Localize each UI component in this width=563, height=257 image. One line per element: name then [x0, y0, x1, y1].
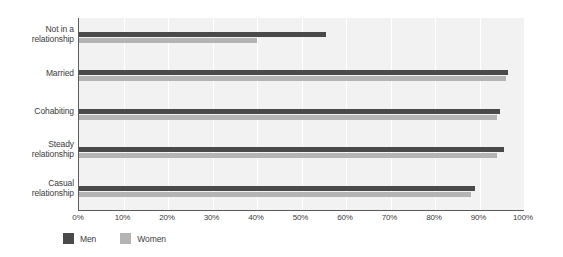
- category-label-line: Not in a: [0, 24, 74, 34]
- bar-group: [79, 172, 524, 210]
- x-tick-label: 50%: [293, 213, 309, 222]
- bar-men: [79, 186, 524, 191]
- legend-item-women[interactable]: Women: [120, 233, 166, 244]
- bar-segment: [79, 153, 497, 158]
- category-label-line: relationship: [0, 34, 74, 44]
- category-label: Steadyrelationship: [0, 139, 74, 159]
- x-tick-label: 30%: [204, 213, 220, 222]
- bar-women: [79, 153, 524, 158]
- x-tick-label: 70%: [382, 213, 398, 222]
- bar-women: [79, 38, 524, 43]
- x-tick-label: 10%: [115, 213, 131, 222]
- bar-men: [79, 109, 524, 114]
- legend-swatch-icon: [63, 233, 74, 244]
- x-tick-label: 0%: [72, 213, 83, 222]
- gridline: [524, 18, 525, 210]
- category-label: Casualrelationship: [0, 178, 74, 198]
- bar-men: [79, 70, 524, 75]
- legend-label: Men: [80, 234, 96, 244]
- category-label-line: relationship: [0, 149, 74, 159]
- bar-segment: [79, 186, 475, 191]
- category-label-line: relationship: [0, 188, 74, 198]
- category-label-line: Married: [0, 68, 74, 78]
- x-tick-label: 90%: [471, 213, 487, 222]
- category-label-line: Cohabiting: [0, 106, 74, 116]
- legend-swatch-icon: [120, 233, 131, 244]
- bar-segment: [79, 115, 497, 120]
- legend-label: Women: [137, 234, 166, 244]
- bar-women: [79, 192, 524, 197]
- bar-women: [79, 115, 524, 120]
- bar-men: [79, 32, 524, 37]
- category-label: Cohabiting: [0, 106, 74, 116]
- x-axis-tick-labels: 0%10%20%30%40%50%60%70%80%90%100%: [78, 213, 523, 227]
- bar-women: [79, 76, 524, 81]
- bar-group: [79, 133, 524, 171]
- bar-chart: Not in arelationshipMarriedCohabitingSte…: [0, 0, 563, 257]
- chart-legend: MenWomen: [63, 233, 166, 244]
- bar-segment: [79, 147, 504, 152]
- category-label-line: Steady: [0, 139, 74, 149]
- bar-group: [79, 18, 524, 56]
- bar-segment: [79, 70, 508, 75]
- bar-segment: [79, 76, 506, 81]
- bar-segment: [79, 109, 500, 114]
- bar-men: [79, 147, 524, 152]
- bar-segment: [79, 32, 326, 37]
- category-axis-labels: Not in arelationshipMarriedCohabitingSte…: [0, 18, 74, 210]
- bar-group: [79, 95, 524, 133]
- x-tick-label: 60%: [337, 213, 353, 222]
- plot-area: [78, 18, 524, 211]
- x-tick-label: 100%: [513, 213, 533, 222]
- x-tick-label: 80%: [426, 213, 442, 222]
- legend-item-men[interactable]: Men: [63, 233, 96, 244]
- category-label: Not in arelationship: [0, 24, 74, 44]
- bar-segment: [79, 192, 471, 197]
- x-tick-label: 20%: [159, 213, 175, 222]
- bar-group: [79, 56, 524, 94]
- bar-segment: [79, 38, 257, 43]
- x-tick-label: 40%: [248, 213, 264, 222]
- category-label: Married: [0, 68, 74, 78]
- bar-rows: [79, 18, 524, 210]
- category-label-line: Casual: [0, 178, 74, 188]
